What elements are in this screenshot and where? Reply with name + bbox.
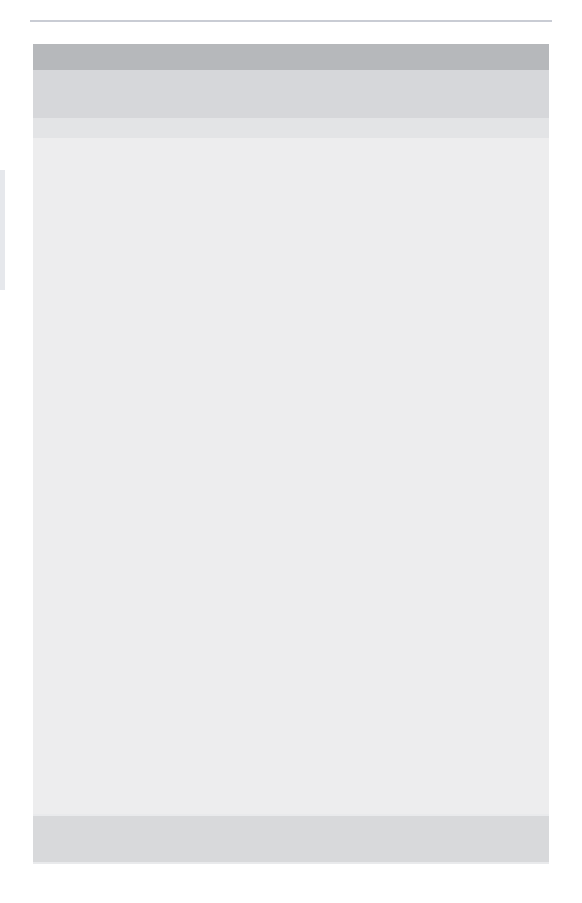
figure-bottom-rule	[33, 862, 549, 864]
page-horizontal-rule	[30, 20, 552, 22]
column-gridlines	[33, 138, 549, 814]
figure-header-band	[33, 70, 549, 118]
figure-title-band	[33, 44, 549, 70]
planting-schedule-figure	[33, 44, 549, 864]
page-edge-tab	[0, 170, 5, 290]
page-running-head	[30, 0, 550, 10]
figure-legend	[33, 816, 549, 864]
week-scale-strip	[33, 118, 549, 138]
schedule-plot-area	[33, 138, 549, 814]
